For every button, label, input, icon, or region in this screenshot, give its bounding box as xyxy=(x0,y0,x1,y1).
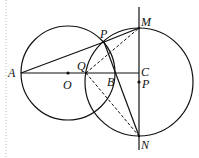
label-o: O xyxy=(63,78,72,92)
label-n: N xyxy=(140,138,150,152)
label-b: B xyxy=(107,75,115,89)
point-p-center xyxy=(137,80,140,83)
point-o xyxy=(66,71,69,74)
label-m: M xyxy=(140,15,152,29)
label-q: Q xyxy=(77,59,86,73)
segment-pm xyxy=(104,28,139,42)
point-m xyxy=(138,27,140,29)
label-a: A xyxy=(7,66,16,80)
geometry-diagram: A O Q B C P P M N xyxy=(0,0,199,158)
label-p-top: P xyxy=(99,27,108,41)
segment-pn xyxy=(104,42,139,136)
point-n xyxy=(138,135,140,137)
label-p-center: P xyxy=(141,77,150,91)
